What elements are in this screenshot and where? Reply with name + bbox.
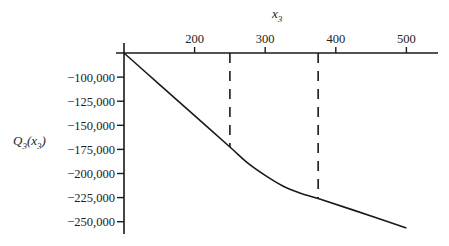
y-tick-label: −225,000	[67, 191, 115, 205]
x-tick-label: 300	[256, 32, 275, 46]
y-tick-label: −150,000	[67, 119, 115, 133]
x-tick-label: 200	[185, 32, 204, 46]
y-axis-ticks: −100,000−125,000−150,000−175,000−200,000…	[67, 71, 124, 230]
y-tick-label: −175,000	[67, 143, 115, 157]
reference-lines	[230, 53, 318, 199]
x-axis-title: x3	[271, 6, 283, 24]
axes	[116, 43, 438, 234]
x-tick-label: 400	[326, 32, 345, 46]
x-tick-label: 500	[397, 32, 416, 46]
y-tick-label: −125,000	[67, 95, 115, 109]
y-axis-title: Q3(x3)	[13, 133, 46, 151]
chart: 200300400500 −100,000−125,000−150,000−17…	[0, 0, 449, 246]
y-tick-label: −250,000	[67, 215, 115, 229]
y-tick-label: −200,000	[67, 167, 115, 181]
q3-curve	[124, 53, 406, 228]
x-axis-ticks: 200300400500	[185, 32, 416, 53]
y-tick-label: −100,000	[67, 71, 115, 85]
